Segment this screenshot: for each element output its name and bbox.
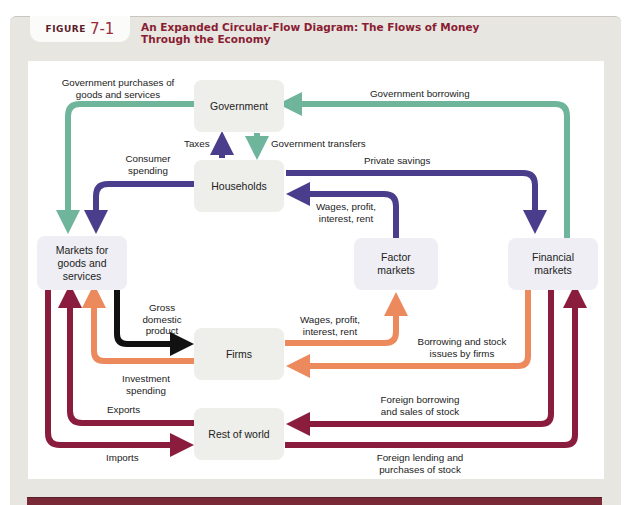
node-factor-markets: Factor markets: [354, 238, 438, 290]
node-rest-of-world-label: Rest of world: [208, 428, 269, 441]
node-markets-label-3: services: [63, 270, 102, 283]
label-investment-1: Investment: [116, 373, 176, 385]
label-gdp: Gross domestic product: [136, 302, 188, 337]
label-gov-purchases-1: Government purchases of: [58, 77, 178, 89]
node-financial-markets: Financial markets: [508, 238, 598, 290]
label-private-savings: Private savings: [364, 155, 430, 167]
label-wages-households: Wages, profit, interest, rent: [308, 201, 384, 224]
node-markets-label-2: goods and: [57, 257, 106, 270]
label-taxes: Taxes: [184, 138, 210, 150]
node-firms: Firms: [194, 328, 284, 380]
node-firms-label: Firms: [226, 348, 252, 361]
label-gov-purchases-2: goods and services: [58, 89, 178, 101]
label-wages-firms: Wages, profit, interest, rent: [292, 314, 368, 337]
label-borrowing-firms-2: issues by firms: [410, 348, 514, 360]
node-factor-label-1: Factor: [381, 251, 411, 264]
label-gov-transfers: Government transfers: [271, 138, 366, 150]
label-gov-purchases: Government purchases of goods and servic…: [58, 77, 178, 100]
label-borrowing-firms: Borrowing and stock issues by firms: [410, 336, 514, 359]
label-consumer-spending: Consumer spending: [118, 153, 178, 176]
label-exports: Exports: [107, 404, 140, 416]
label-foreign-borrowing-1: Foreign borrowing: [372, 394, 468, 406]
label-imports: Imports: [106, 452, 139, 464]
node-markets-goods-services: Markets for goods and services: [37, 236, 127, 290]
node-government-label: Government: [210, 100, 268, 113]
label-gov-borrowing: Government borrowing: [370, 88, 470, 100]
node-financial-label-2: markets: [534, 264, 571, 277]
node-households-label: Households: [211, 180, 266, 193]
label-wages-households-2: interest, rent: [308, 213, 384, 225]
consumer-spending-arrow: [96, 184, 194, 222]
label-wages-firms-1: Wages, profit,: [292, 314, 368, 326]
node-government: Government: [194, 80, 284, 132]
label-foreign-borrowing-2: and sales of stock: [372, 406, 468, 418]
label-consumer-spending-2: spending: [118, 165, 178, 177]
label-foreign-lending-1: Foreign lending and: [368, 452, 472, 464]
label-investment-spending: Investment spending: [116, 373, 176, 396]
label-foreign-lending-2: purchases of stock: [368, 464, 472, 476]
node-financial-label-1: Financial: [532, 251, 574, 264]
node-factor-label-2: markets: [377, 264, 414, 277]
label-wages-households-1: Wages, profit,: [308, 201, 384, 213]
label-gdp-3: product: [136, 325, 188, 337]
node-households: Households: [194, 160, 284, 212]
label-consumer-spending-1: Consumer: [118, 153, 178, 165]
label-investment-2: spending: [116, 385, 176, 397]
label-foreign-borrowing: Foreign borrowing and sales of stock: [372, 394, 468, 417]
label-gdp-2: domestic: [136, 314, 188, 326]
node-rest-of-world: Rest of world: [194, 408, 284, 460]
label-gdp-1: Gross: [136, 302, 188, 314]
label-wages-firms-2: interest, rent: [292, 326, 368, 338]
node-markets-label-1: Markets for: [56, 244, 109, 257]
label-foreign-lending: Foreign lending and purchases of stock: [368, 452, 472, 475]
label-borrowing-firms-1: Borrowing and stock: [410, 336, 514, 348]
